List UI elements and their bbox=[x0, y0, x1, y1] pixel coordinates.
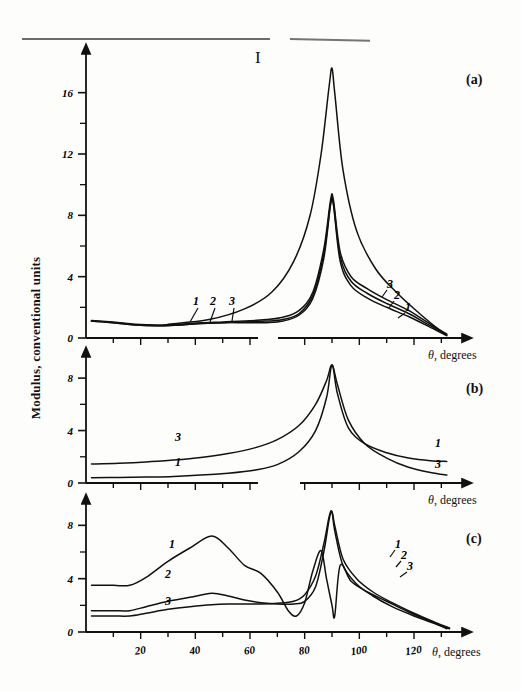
y-tick-label-b-0: 0 bbox=[68, 477, 74, 489]
y-tick-label-a-4: 4 bbox=[67, 271, 74, 283]
y-tick-label-c-8: 8 bbox=[68, 519, 74, 531]
leader-a-left-1 bbox=[190, 308, 198, 322]
curve-label-b-left-1: 1 bbox=[175, 455, 181, 469]
curve-c-3 bbox=[92, 511, 450, 629]
y-tick-label-a-16: 16 bbox=[62, 87, 74, 99]
curve-c-2 bbox=[92, 512, 450, 628]
x-tick-label-120: 120 bbox=[404, 643, 423, 657]
curve-b-3 bbox=[92, 365, 447, 475]
leader-a-left-2 bbox=[210, 308, 215, 322]
figure-root: I Modulus, conventional units (a) (b) (c… bbox=[0, 0, 521, 692]
leader-a-left-3 bbox=[232, 308, 234, 321]
curve-label-a-left-1: 1 bbox=[193, 294, 199, 308]
curve-label-c-left-3: 3 bbox=[164, 594, 171, 608]
curve-label-b-right-1: 1 bbox=[435, 436, 441, 450]
curve-a-1 bbox=[92, 198, 447, 336]
leader-c-right-1 bbox=[390, 550, 395, 557]
curve-label-a-left-2: 2 bbox=[209, 294, 216, 308]
tick-and-curve-labels: 0481216048048204060801001201233213113123… bbox=[62, 87, 441, 657]
curve-label-b-right-3: 3 bbox=[434, 457, 441, 471]
curve-label-a-left-3: 3 bbox=[228, 294, 235, 308]
curve-label-c-left-2: 2 bbox=[164, 567, 171, 581]
curve-a-main-resonance bbox=[168, 68, 441, 332]
y-tick-label-a-8: 8 bbox=[68, 209, 74, 221]
curve-a-2 bbox=[92, 197, 447, 335]
curve-label-a-right-1: 1 bbox=[405, 300, 411, 314]
y-tick-label-b-8: 8 bbox=[68, 372, 74, 384]
curve-label-c-right-2: 2 bbox=[400, 548, 407, 562]
curve-label-c-right-3: 3 bbox=[406, 559, 413, 573]
curve-a-3 bbox=[92, 194, 447, 335]
leader-c-right-3 bbox=[400, 572, 407, 577]
leader-a-right-3 bbox=[382, 290, 387, 297]
curve-label-a-right-2: 2 bbox=[393, 288, 400, 302]
y-tick-label-c-0: 0 bbox=[68, 626, 74, 638]
curve-label-c-left-1: 1 bbox=[169, 537, 175, 551]
y-tick-label-b-4: 4 bbox=[67, 425, 74, 437]
x-tick-label-80: 80 bbox=[298, 643, 311, 656]
y-tick-label-a-0: 0 bbox=[68, 332, 74, 344]
leader-c-right-2 bbox=[396, 561, 401, 567]
x-tick-label-100: 100 bbox=[350, 643, 369, 657]
plot-canvas: 0481216048048204060801001201233213113123… bbox=[0, 0, 521, 692]
curve-label-a-right-3: 3 bbox=[386, 277, 393, 291]
y-tick-label-a-12: 12 bbox=[62, 148, 74, 160]
x-tick-label-60: 60 bbox=[243, 643, 256, 656]
x-tick-label-40: 40 bbox=[188, 643, 202, 657]
x-tick-label-20: 20 bbox=[133, 643, 147, 657]
y-tick-label-c-4: 4 bbox=[67, 573, 74, 585]
curve-c-1 bbox=[92, 536, 447, 629]
curve-label-b-left-3: 3 bbox=[174, 430, 181, 444]
